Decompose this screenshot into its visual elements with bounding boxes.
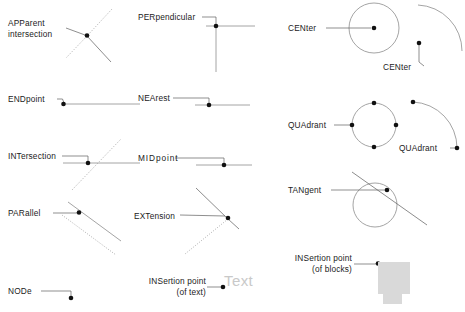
glyph-extension <box>180 188 239 254</box>
label-parallel: PARallel <box>8 208 40 218</box>
label-nearest: NEArest <box>138 93 170 103</box>
label-midpoint: MIDpoint <box>138 153 178 163</box>
glyph-insertion-point-text <box>207 285 225 290</box>
block-symbol-tab <box>383 294 402 304</box>
label-node: NODe <box>8 286 32 296</box>
label-apparent-intersection-line1: APParent <box>8 18 45 28</box>
glyph-insertion-point-blocks <box>354 261 380 266</box>
label-apparent-intersection: APParentintersection <box>8 18 52 40</box>
glyph-quadrant-circle <box>334 101 398 150</box>
label-center-arc: CENter <box>383 62 411 72</box>
label-insertion-point-blocks-line1: INSertion point <box>295 253 352 263</box>
glyph-apparent-intersection <box>66 9 112 62</box>
label-quadrant-circle: QUAdrant <box>288 120 326 130</box>
label-endpoint: ENDpoint <box>8 94 45 104</box>
sample-text-object: Text <box>224 272 253 289</box>
label-intersection: INTersection <box>8 151 56 161</box>
glyph-node <box>41 291 73 300</box>
label-extension: EXTension <box>134 211 175 221</box>
glyph-perpendicular <box>202 17 255 72</box>
block-symbol-body <box>378 262 410 294</box>
glyph-endpoint <box>57 99 140 106</box>
glyph-tangent <box>331 172 427 227</box>
glyph-center-circle <box>326 3 399 53</box>
label-insertion-point-text: INSertion point(of text) <box>126 276 206 298</box>
label-quadrant-arc: QUAdrant <box>399 143 437 153</box>
glyph-midpoint <box>175 158 252 167</box>
label-tangent: TANgent <box>288 185 321 195</box>
glyph-intersection <box>62 139 140 190</box>
label-apparent-intersection-line2: intersection <box>8 29 52 39</box>
label-insertion-point-text-line1: INSertion point <box>149 276 206 286</box>
label-center-circle: CENter <box>288 23 316 33</box>
glyph-nearest <box>173 98 250 107</box>
label-insertion-point-text-line2: (of text) <box>177 287 206 297</box>
glyph-center-arc <box>417 5 462 66</box>
diagram-canvas: .ln { stroke:#8d8d8d; stroke-width:.8; f… <box>0 0 465 312</box>
glyph-parallel <box>53 202 121 255</box>
label-perpendicular: PERpendicular <box>138 12 195 22</box>
label-insertion-point-blocks-line2: (of blocks) <box>312 264 352 274</box>
label-insertion-point-blocks: INSertion point(of blocks) <box>272 253 352 275</box>
